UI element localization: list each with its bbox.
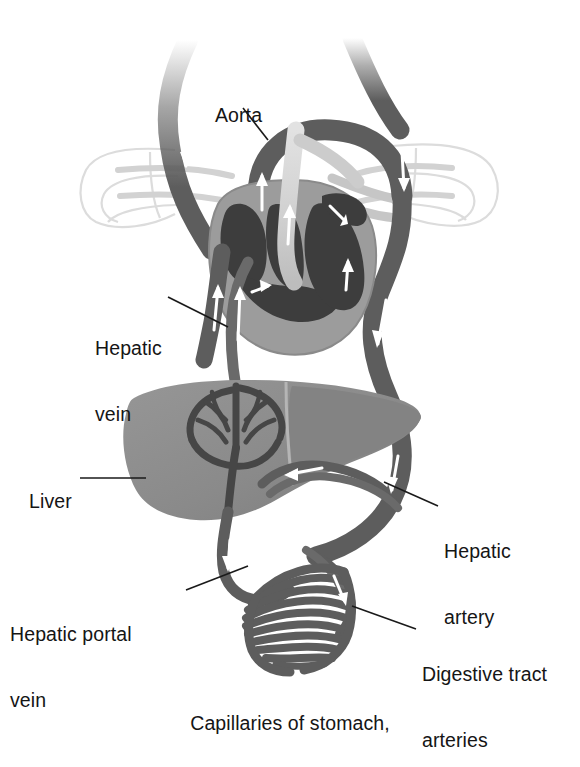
inferior-vena-cava (204, 252, 222, 360)
label-hepatic-portal-vein-line1: Hepatic portal (10, 623, 132, 645)
label-liver: Liver (18, 468, 72, 512)
label-hepatic-artery-line1: Hepatic (444, 540, 511, 562)
label-hepatic-vein-line2: vein (95, 403, 162, 425)
pulmonary-artery-pale (286, 130, 296, 282)
caption-line1: Capillaries of stomach, (0, 712, 580, 734)
label-aorta: Aorta (205, 82, 262, 126)
liver (123, 380, 421, 520)
label-hepatic-vein-line1: Hepatic (95, 337, 162, 359)
caption-capillaries: Capillaries of stomach, intestines, panc… (0, 668, 580, 767)
leader-hepatic-portal-vein (186, 566, 248, 590)
label-liver-text: Liver (29, 490, 72, 512)
pulmonary-trunk-upper (352, 38, 400, 130)
label-hepatic-vein: Hepatic vein (95, 293, 162, 447)
label-aorta-text: Aorta (215, 104, 262, 126)
leader-digestive-tract-arteries (352, 606, 416, 629)
diagram-canvas: Aorta Hepatic vein Liver Hepatic portal … (0, 0, 580, 767)
